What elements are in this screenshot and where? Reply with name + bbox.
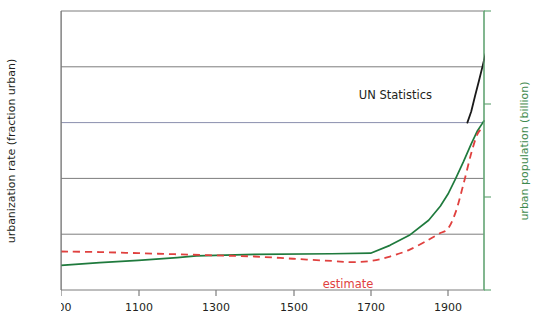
annotation-estimate: estimate: [323, 277, 374, 291]
x-tick-label-1300: 1300: [202, 301, 230, 314]
left-axis-title: urbanization rate (fraction urban): [5, 59, 18, 244]
x-tick-label-1900: 1900: [434, 301, 462, 314]
annotation-un-statistics: UN Statistics: [359, 88, 432, 102]
x-tick-label-1100: 1100: [125, 301, 153, 314]
x-axis-ticks: [61, 290, 448, 296]
x-tick-label-1500: 1500: [280, 301, 308, 314]
chart-container: 0.50 0.40 0.30 0.20 0.10 0.00 10 1 0.1 0…: [0, 0, 537, 322]
x-axis-tick-labels: 900 1100 1300 1500 1700 1900: [51, 301, 463, 314]
plot-area-background: [61, 11, 484, 290]
urbanization-chart: 0.50 0.40 0.30 0.20 0.10 0.00 10 1 0.1 0…: [0, 0, 537, 322]
right-axis-title: urban population (billion): [518, 81, 531, 220]
x-tick-label-1700: 1700: [357, 301, 385, 314]
